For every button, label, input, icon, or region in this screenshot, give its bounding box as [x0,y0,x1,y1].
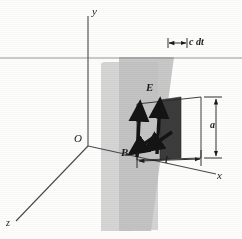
y-axis-label: y [92,6,97,17]
diagram-svg [0,0,242,239]
cdt-dimension-label: c dt [189,37,204,47]
cdt-dimension [168,38,187,48]
e-field-label: E [146,82,153,93]
swept-region [160,97,181,160]
a-dimension-label: a [210,120,215,130]
origin-label: O [74,133,82,144]
z-axis-label: z [6,218,10,228]
figure-canvas: y x z O E B c dt a l [0,0,242,239]
z-axis [16,146,88,221]
b-field-label: B [121,147,128,158]
x-axis-label: x [217,170,222,181]
l-dimension-label: l [165,155,168,165]
